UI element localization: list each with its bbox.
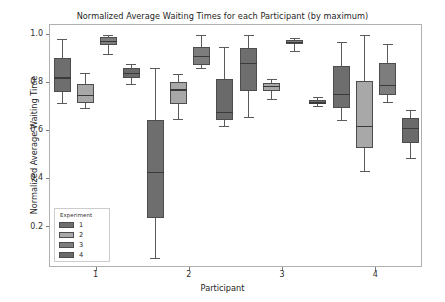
x-tick-label: 4 [360,270,390,279]
legend-item: 2 [59,230,105,240]
median-line [402,128,419,129]
y-tick-mark [46,226,50,227]
chart-root: Normalized Average Waiting Times for eac… [0,0,445,302]
legend-swatch-icon [59,222,74,229]
x-tick-label: 3 [267,270,297,279]
legend: Experiment 1234 [54,208,110,262]
y-axis-label: Normalized Average Waiting Time [29,20,39,270]
legend-swatch-icon [59,232,74,239]
legend-item: 3 [59,240,105,250]
x-tick-label: 2 [174,270,204,279]
legend-item-label: 4 [79,252,83,259]
legend-rows: 1234 [59,220,105,260]
whisker-lower [410,143,411,158]
y-tick-mark [46,130,50,131]
legend-swatch-icon [59,242,74,249]
whisker-upper [410,110,411,118]
y-tick-mark [46,178,50,179]
whisker-cap-upper [406,110,416,111]
legend-item-label: 1 [79,222,83,229]
x-tick-label: 1 [81,270,111,279]
whisker-cap-lower [406,158,416,159]
legend-title: Experiment [60,212,105,218]
legend-item: 4 [59,250,105,260]
x-axis-label: Participant [0,283,445,293]
legend-item: 1 [59,220,105,230]
legend-item-label: 2 [79,232,83,239]
legend-item-label: 3 [79,242,83,249]
y-tick-mark [46,34,50,35]
box-iqr [402,118,419,143]
legend-swatch-icon [59,252,74,259]
chart-title: Normalized Average Waiting Times for eac… [0,11,445,21]
y-tick-mark [46,82,50,83]
